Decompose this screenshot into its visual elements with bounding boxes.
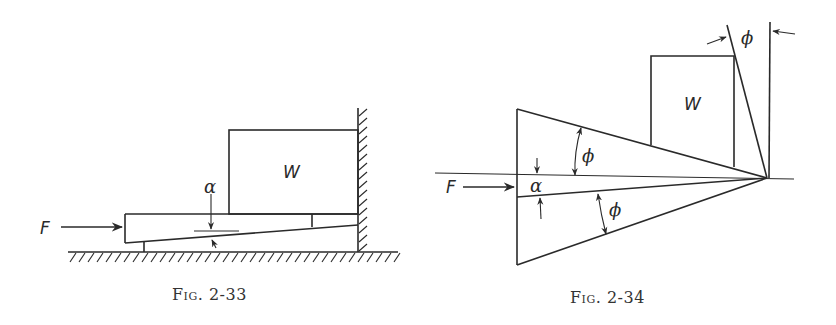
phi-lower-arc — [598, 194, 606, 234]
figure-caption: Fig. 2-33 — [172, 285, 247, 304]
phi-lower-label: ϕ — [609, 199, 621, 220]
horizontal-reference-line — [435, 173, 794, 179]
phi-top-arrow-left — [707, 37, 726, 44]
wedge — [125, 214, 358, 252]
figure-2-33: W α F Fig. 2-33 — [40, 108, 400, 304]
alpha-label: α — [204, 176, 216, 197]
weight-label: W — [684, 94, 702, 114]
force-label: F — [446, 177, 456, 197]
alpha-label: α — [530, 175, 542, 196]
vertical-wall — [358, 108, 367, 252]
phi-upper-arc — [575, 128, 581, 175]
force-triangle — [517, 109, 767, 265]
phi-top-label: ϕ — [741, 27, 753, 48]
weight-label: W — [283, 162, 301, 182]
phi-top-arrow-right — [773, 31, 795, 34]
vertical-line — [769, 22, 770, 178]
ground-surface — [68, 252, 400, 262]
diagram-canvas: W α F Fig. 2-33 — [0, 0, 836, 325]
phi-upper-label: ϕ — [582, 145, 594, 166]
alpha-arrow-bottom — [540, 198, 541, 219]
figure-caption: Fig. 2-34 — [570, 288, 645, 307]
figure-2-34: W ϕ ϕ ϕ α F Fig. 2-34 — [435, 22, 795, 307]
force-label: F — [40, 218, 50, 238]
angle-alpha-annotation — [194, 194, 239, 248]
